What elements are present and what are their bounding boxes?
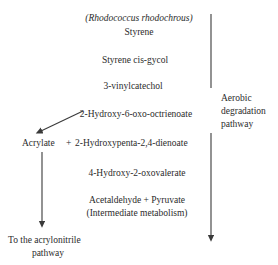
pathway-step-4-hydroxy-2-oxovalerate: 4-Hydroxy-2-oxovalerate bbox=[88, 167, 185, 179]
organism-title: (Rhodococcus rhodochrous) bbox=[85, 12, 192, 24]
pathway-step-3-vinylcatechol: 3-vinylcatechol bbox=[103, 80, 162, 92]
acrylonitrile-outcome-line2: pathway bbox=[32, 247, 64, 259]
pathway-step-styrene-cis-gycol: Styrene cis-gycol bbox=[102, 54, 168, 66]
acrylonitrile-outcome-line1: To the acrylonitrile bbox=[8, 234, 81, 246]
pathway-arrows bbox=[0, 0, 278, 265]
branch-diagonal-arrow bbox=[41, 111, 83, 131]
pathway-step-intermediate-metabolism: (Intermediate metabolism) bbox=[86, 207, 187, 219]
pathway-step-2-hydroxy-6-oxo-octrienoate: 2-Hydroxy-6-oxo-octrienoate bbox=[80, 108, 192, 120]
aerobic-label-line3: pathway bbox=[221, 118, 253, 130]
metabolic-pathway-diagram: (Rhodococcus rhodochrous) Styrene Styren… bbox=[0, 0, 278, 265]
aerobic-label-line2: degradation bbox=[221, 105, 266, 117]
pathway-step-styrene: Styrene bbox=[124, 26, 153, 38]
aerobic-label-line1: Aerobic bbox=[221, 92, 252, 104]
branch-left-acrylate: Acrylate bbox=[22, 137, 55, 149]
pathway-step-acetaldehyde-pyruvate: Acetaldehyde + Pyruvate bbox=[89, 194, 185, 206]
branch-plus-sign: + bbox=[66, 137, 71, 149]
branch-right-2-hydroxypenta-dienoate: 2-Hydroxypenta-2,4-dienoate bbox=[75, 137, 188, 149]
